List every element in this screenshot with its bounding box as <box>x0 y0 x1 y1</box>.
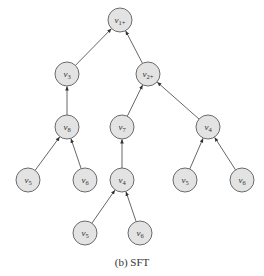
edge-arrow <box>92 190 115 223</box>
edge-arrow <box>126 31 143 63</box>
tree-node: v6 <box>128 221 152 245</box>
tree-node: v5 <box>73 221 97 245</box>
nodes-layer: v1+v3v2+v8v7v4v5v6v4v5v6v5v6 <box>16 8 254 245</box>
tree-node: v1+ <box>108 8 132 32</box>
tree-node: v5 <box>173 168 197 192</box>
tree-diagram: v1+v3v2+v8v7v4v5v6v4v5v6v5v6 <box>0 0 264 256</box>
tree-node: v7 <box>110 115 134 139</box>
edge-arrow <box>35 137 59 170</box>
figure-caption: (b) SFT <box>0 256 264 268</box>
edge-arrow <box>71 139 81 169</box>
tree-node: v5 <box>16 168 40 192</box>
tree-node: v6 <box>73 168 97 192</box>
edge-arrow <box>157 82 199 119</box>
tree-node: v2+ <box>136 62 160 86</box>
tree-node: v6 <box>230 168 254 192</box>
tree-node: v4 <box>110 168 134 192</box>
edge-arrow <box>190 138 203 169</box>
edge-arrow <box>215 138 236 170</box>
edge-arrow <box>75 29 111 66</box>
tree-node: v4 <box>196 115 220 139</box>
tree-node: v3 <box>55 62 79 86</box>
edge-arrow <box>127 85 142 116</box>
tree-node: v8 <box>55 115 79 139</box>
edge-arrow <box>126 192 136 222</box>
